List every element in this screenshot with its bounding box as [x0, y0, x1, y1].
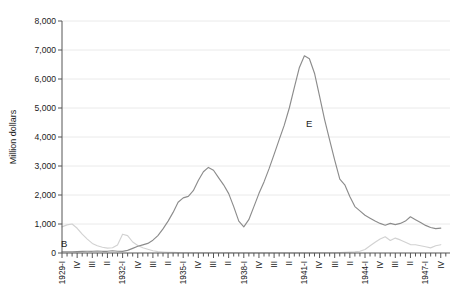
x-tick-label: III [391, 261, 400, 268]
line-E [62, 56, 441, 252]
x-tick-label: III [331, 261, 340, 268]
x-tick-label: 1947-I [421, 261, 430, 284]
y-tick-label: 1,000 [34, 219, 56, 229]
x-tick-label: IV [255, 260, 264, 268]
x-tick-label: 1935-I [179, 261, 188, 284]
y-tick-label: 2,000 [34, 190, 56, 200]
x-tick-label: II [103, 261, 112, 266]
chart-container: 01,0002,0003,0004,0005,0006,0007,0008,00… [0, 0, 458, 306]
x-tick-label: 1932-I [118, 261, 127, 284]
x-tick-label: II [164, 261, 173, 266]
x-tick-label: II [346, 261, 355, 266]
x-tick-label: IV [194, 260, 203, 268]
x-tick-label: II [285, 261, 294, 266]
y-tick-label: 6,000 [34, 74, 56, 84]
x-tick-label: IV [437, 260, 446, 268]
x-tick-label: III [209, 261, 218, 268]
y-tick-label: 4,000 [34, 132, 56, 142]
y-tick-label: 0 [51, 248, 56, 258]
x-tick-label: IV [73, 260, 82, 268]
x-tick-label: IV [376, 260, 385, 268]
y-tick-labels: 01,0002,0003,0004,0005,0006,0007,0008,00… [34, 16, 56, 258]
line-B [62, 224, 441, 253]
y-tick-label: 8,000 [34, 16, 56, 26]
y-axis-title: Million dollars [8, 109, 18, 164]
series-E-line [62, 56, 441, 252]
y-tick-label: 5,000 [34, 103, 56, 113]
x-tick-label: III [149, 261, 158, 268]
x-tick-label: 1938-I [240, 261, 249, 284]
x-tick-labels: 1929-IIVIIIII1932-IIVIIIII1935-IIVIIIII1… [58, 260, 446, 284]
gridlines [62, 21, 450, 224]
x-tick-label: 1929-I [58, 261, 67, 284]
x-tick-label: II [224, 261, 233, 266]
y-tick-label: 3,000 [34, 161, 56, 171]
x-tick-label: 1944-I [361, 261, 370, 284]
x-axis [62, 253, 450, 258]
x-tick-label: IV [134, 260, 143, 268]
x-tick-label: III [88, 261, 97, 268]
y-tick-label: 7,000 [34, 45, 56, 55]
series-label-E: E [306, 118, 312, 129]
series-label-B: B [61, 238, 67, 249]
x-tick-label: III [270, 261, 279, 268]
x-tick-label: 1941-I [300, 261, 309, 284]
series-B-line [62, 224, 441, 253]
quarterly-line-chart: 01,0002,0003,0004,0005,0006,0007,0008,00… [0, 0, 458, 306]
y-axis [58, 21, 62, 253]
x-tick-label: II [406, 261, 415, 266]
x-tick-label: IV [315, 260, 324, 268]
